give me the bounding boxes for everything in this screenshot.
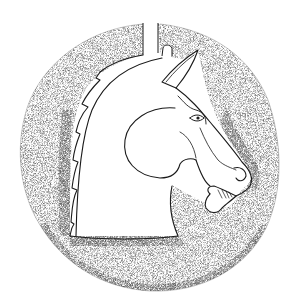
suspension-loop: [162, 45, 172, 56]
illustration: [0, 0, 295, 307]
pupil: [196, 116, 199, 119]
horse-head-drawing: [0, 0, 295, 307]
